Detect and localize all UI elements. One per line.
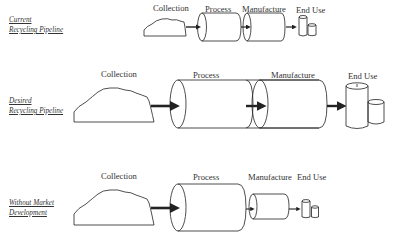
without-market-collection-pile [74,190,154,225]
without-market-end-use-cans [302,200,319,218]
without-market-manufacture-cylinder [249,194,289,219]
pipeline-diagram [0,0,394,239]
desired-collection-pile [74,88,154,122]
current-process-cylinder [198,13,242,41]
desired-process-cylinder [170,80,319,128]
current-manufacture-cylinder [243,13,285,41]
desired-manufacture-cylinder [252,80,327,128]
current-collection-pile [144,19,186,36]
without-market-process-cylinder [170,184,246,231]
current-end-use-cans [299,16,316,37]
desired-end-use-cans [346,83,384,129]
